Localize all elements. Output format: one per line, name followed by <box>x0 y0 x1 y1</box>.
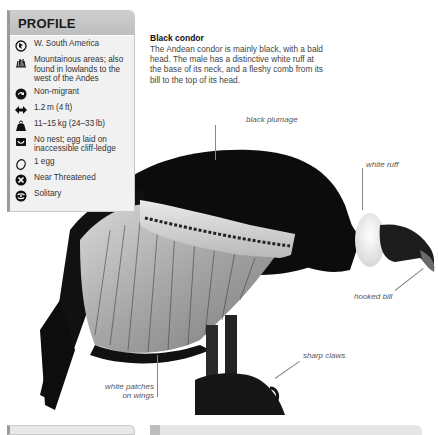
profile-panel: PROFILE W. South America Mountainous are… <box>7 10 135 212</box>
annotation-white-patches-line1: white patches <box>100 382 154 391</box>
annotation-sharp-claws: sharp claws <box>303 351 345 360</box>
annotation-white-ruff: white ruff <box>366 160 398 169</box>
profile-item-text: Mountainous areas; also found in lowland… <box>34 55 130 84</box>
profile-item-text: 1.2 m (4 ft) <box>34 103 72 113</box>
conservation-status-icon <box>14 174 28 186</box>
profile-title: PROFILE <box>18 16 76 31</box>
profile-item-text: Near Threatened <box>34 173 96 183</box>
profile-item-migration: Non-migrant <box>14 87 130 100</box>
profile-item-text: 1 egg <box>34 157 55 167</box>
profile-item-text: Solitary <box>34 189 61 199</box>
annotation-hooked-bill: hooked bill <box>354 292 392 301</box>
profile-item-weight: 11–15 kg (24–33 lb) <box>14 119 130 132</box>
leader-line-black-plumage <box>215 125 216 160</box>
egg-icon <box>14 158 28 170</box>
annotation-white-patches: white patches on wings <box>100 382 154 400</box>
next-profile-panel-edge <box>7 425 135 435</box>
species-intro: Black condor The Andean condor is mainly… <box>150 33 325 85</box>
profile-header: PROFILE <box>10 11 134 36</box>
globe-icon <box>14 40 28 52</box>
profile-item-social: Solitary <box>14 189 130 202</box>
profile-item-text: No nest; egg laid on inaccessible cliff-… <box>34 135 130 154</box>
next-section-panel-edge <box>150 425 422 435</box>
profile-item-text: 11–15 kg (24–33 lb) <box>34 119 105 129</box>
habitat-grass-icon <box>14 56 28 68</box>
species-heading: Black condor <box>150 33 325 43</box>
profile-item-range: W. South America <box>14 39 130 52</box>
profile-item-nest: No nest; egg laid on inaccessible cliff-… <box>14 135 130 154</box>
species-description: The Andean condor is mainly black, with … <box>150 44 325 85</box>
profile-item-text: Non-migrant <box>34 87 79 97</box>
profile-item-text: W. South America <box>34 39 99 49</box>
annotation-white-patches-line2: on wings <box>100 391 154 400</box>
weight-icon <box>14 120 28 132</box>
profile-item-habitat: Mountainous areas; also found in lowland… <box>14 55 130 84</box>
social-behavior-icon <box>14 190 28 202</box>
wingspan-arrows-icon <box>14 104 28 116</box>
migration-arrow-icon <box>14 88 28 100</box>
annotation-black-plumage: black plumage <box>246 115 298 124</box>
leader-line-white-ruff <box>362 168 363 210</box>
profile-item-status: Near Threatened <box>14 173 130 186</box>
profile-item-wingspan: 1.2 m (4 ft) <box>14 103 130 116</box>
nest-icon <box>14 136 28 148</box>
profile-item-eggs: 1 egg <box>14 157 130 170</box>
profile-list: W. South America Mountainous areas; also… <box>10 36 134 202</box>
leader-line-white-patches <box>157 355 158 397</box>
